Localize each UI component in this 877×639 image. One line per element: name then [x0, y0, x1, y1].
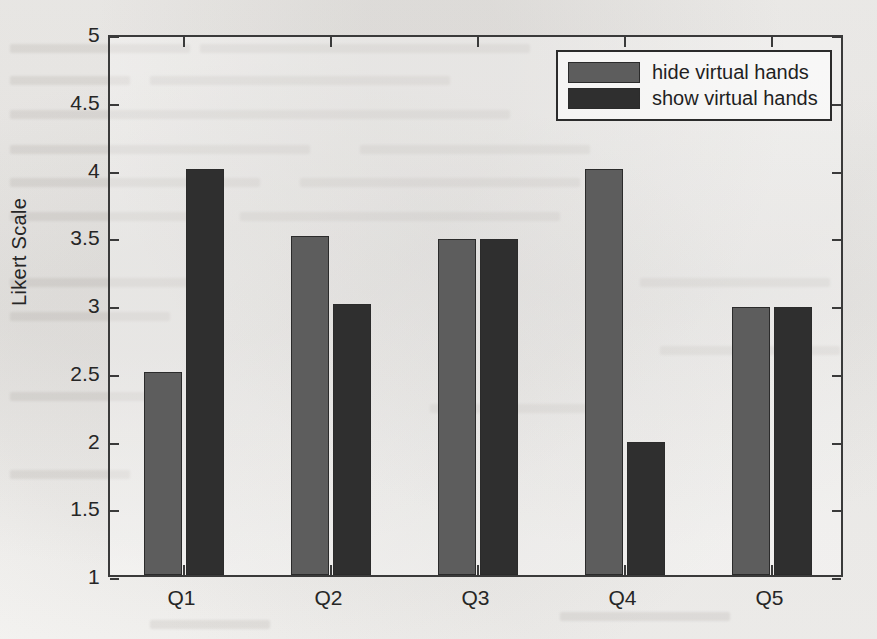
- y-axis-label: Likert Scale: [8, 198, 31, 306]
- x-tick-label-q5: Q5: [755, 586, 783, 610]
- y-tick-label-1: 1: [88, 565, 100, 589]
- x-axis-tick: [771, 565, 773, 575]
- bar-q4-hide: [585, 169, 623, 576]
- x-axis-tick: [477, 565, 479, 575]
- bar-q2-show: [333, 304, 371, 575]
- y-tick-label-2: 2: [88, 430, 100, 454]
- y-axis-tick: [110, 36, 119, 38]
- y-axis-tick: [832, 172, 841, 174]
- x-axis-tick: [771, 37, 773, 47]
- legend-swatch-hide-virtual-hands: [568, 62, 640, 83]
- legend-item: show virtual hands: [568, 85, 820, 111]
- y-axis-tick-labels: 11.522.533.544.55: [40, 35, 100, 577]
- bar-q5-hide: [732, 307, 770, 575]
- y-axis-tick: [832, 104, 841, 106]
- legend-label: show virtual hands: [652, 87, 818, 110]
- legend-label: hide virtual hands: [652, 61, 809, 84]
- legend-swatch-show-virtual-hands: [568, 88, 640, 109]
- y-axis-tick: [110, 578, 119, 580]
- x-axis-tick: [624, 565, 626, 575]
- y-axis-tick: [832, 239, 841, 241]
- x-tick-label-q3: Q3: [461, 586, 489, 610]
- x-axis-tick: [477, 37, 479, 47]
- bleed-text-line: [150, 620, 270, 629]
- legend-item: hide virtual hands: [568, 59, 820, 85]
- y-axis-tick: [832, 443, 841, 445]
- y-tick-label-3.5: 3.5: [70, 226, 100, 250]
- y-axis-tick: [110, 239, 119, 241]
- x-axis-tick: [183, 37, 185, 47]
- bar-q1-hide: [144, 372, 182, 575]
- y-axis-tick: [832, 307, 841, 309]
- y-axis-tick: [110, 375, 119, 377]
- y-tick-label-2.5: 2.5: [70, 362, 100, 386]
- y-axis-tick: [832, 578, 841, 580]
- chart-page: Likert Scale 11.522.533.544.55 Q1Q2Q3Q4Q…: [0, 0, 877, 639]
- y-tick-label-5: 5: [88, 23, 100, 47]
- bar-q3-show: [480, 239, 518, 575]
- y-axis-tick: [110, 172, 119, 174]
- bar-q1-show: [186, 169, 224, 576]
- y-axis-tick: [832, 375, 841, 377]
- y-axis-tick: [110, 443, 119, 445]
- y-axis-tick: [832, 36, 841, 38]
- y-tick-label-4.5: 4.5: [70, 91, 100, 115]
- bar-q5-show: [774, 307, 812, 575]
- x-tick-label-q2: Q2: [314, 586, 342, 610]
- y-tick-label-3: 3: [88, 294, 100, 318]
- y-tick-label-4: 4: [88, 159, 100, 183]
- x-axis-tick: [183, 565, 185, 575]
- x-axis-tick: [624, 37, 626, 47]
- y-axis-tick: [110, 307, 119, 309]
- x-axis-tick: [330, 37, 332, 47]
- bar-q3-hide: [438, 239, 476, 575]
- chart-legend: hide virtual hands show virtual hands: [556, 50, 832, 121]
- bar-q2-hide: [291, 236, 329, 575]
- x-axis-tick: [330, 565, 332, 575]
- x-axis-tick-labels: Q1Q2Q3Q4Q5: [108, 586, 843, 616]
- y-axis-tick: [110, 104, 119, 106]
- y-tick-label-1.5: 1.5: [70, 497, 100, 521]
- y-axis-tick: [110, 510, 119, 512]
- x-tick-label-q1: Q1: [167, 586, 195, 610]
- y-axis-tick: [832, 510, 841, 512]
- bar-q4-show: [627, 442, 665, 575]
- x-tick-label-q4: Q4: [608, 586, 636, 610]
